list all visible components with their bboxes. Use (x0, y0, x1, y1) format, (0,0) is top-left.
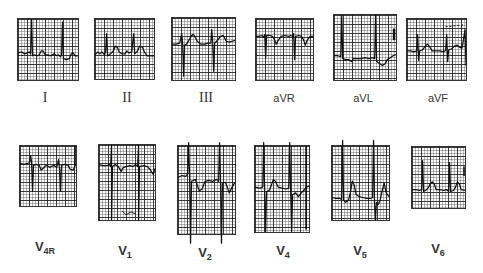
ecg-strip-lead-V4R (19, 145, 77, 207)
lead-label-V2: V2 (198, 245, 212, 262)
ecg-trace-V1 (99, 145, 155, 220)
ecg-strip-lead-aVL (333, 14, 397, 81)
ecg-trace-V2 (178, 146, 235, 234)
ecg-trace-aVL (334, 15, 396, 80)
ecg-strip-lead-V1 (98, 144, 156, 221)
ecg-trace-aVR (256, 19, 313, 80)
ecg-strip-lead-V6 (411, 146, 466, 209)
lead-label-aVR: aVR (273, 92, 294, 104)
ecg-strip-lead-III (171, 17, 236, 81)
lead-label-V4: V4 (276, 243, 290, 260)
lead-label-V4R: V4R (35, 239, 55, 256)
lead-label-II: II (122, 90, 131, 106)
lead-label-V5: V5 (353, 243, 367, 260)
ecg-trace-III (172, 18, 235, 80)
lead-label-V1: V1 (118, 243, 132, 260)
ecg-strip-lead-V2 (177, 145, 236, 235)
lead-label-aVL: aVL (353, 92, 373, 104)
ecg-trace-V4R (20, 146, 76, 206)
lead-label-aVF: aVF (428, 92, 448, 104)
ecg-strip-lead-aVR (255, 18, 314, 81)
ecg-strip-lead-V5 (331, 145, 390, 221)
ecg-figure: I II III aVR aVL aVF (0, 0, 483, 273)
ecg-strip-lead-V4 (254, 145, 310, 233)
lead-label-III: III (199, 90, 213, 106)
ecg-strip-lead-aVF (406, 18, 467, 81)
ecg-trace-aVF (407, 19, 466, 80)
ecg-trace-II (95, 19, 154, 79)
ecg-trace-V5 (332, 146, 389, 220)
lead-label-V6: V6 (431, 241, 445, 258)
ecg-trace-V6 (412, 147, 465, 208)
ecg-trace-V4 (255, 146, 309, 232)
ecg-trace-I (18, 19, 78, 80)
ecg-strip-lead-II (94, 18, 155, 80)
ecg-strip-lead-I (17, 18, 79, 81)
lead-label-I: I (43, 90, 48, 106)
